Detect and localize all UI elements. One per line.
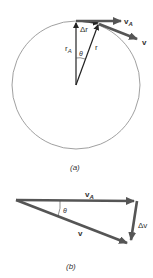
v-a-label-b: vA <box>85 190 94 200</box>
velocity-diagram: vA v rA r Δr θ (a) vA v Δv θ (b) <box>0 0 153 278</box>
r-a-label: rA <box>65 44 72 54</box>
theta-label-a: θ <box>79 50 83 57</box>
delta-r-label: Δr <box>80 25 88 34</box>
theta-arc-b <box>58 201 60 216</box>
caption-b: (b) <box>66 262 76 271</box>
delta-v-label: Δv <box>138 221 147 230</box>
theta-label-b: θ <box>63 207 67 214</box>
diagram-a: vA v rA r Δr θ (a) <box>12 17 147 172</box>
v-label-b: v <box>78 229 83 238</box>
delta-v-vector <box>131 201 137 240</box>
r-label: r <box>95 43 98 52</box>
v-vector-b <box>16 200 127 243</box>
caption-a: (a) <box>70 163 80 172</box>
theta-arc-a <box>76 58 85 59</box>
diagram-b: vA v Δv θ (b) <box>16 190 147 271</box>
v-label: v <box>142 38 147 47</box>
v-a-label: vA <box>124 17 133 27</box>
v-a-vector-b <box>16 200 134 201</box>
